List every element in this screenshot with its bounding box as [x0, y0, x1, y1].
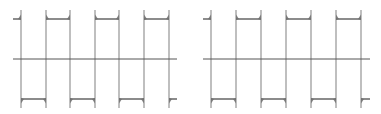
square-wave-plots [0, 0, 381, 114]
figure [0, 0, 381, 114]
plot-left [13, 10, 177, 108]
plot-right [203, 10, 370, 108]
